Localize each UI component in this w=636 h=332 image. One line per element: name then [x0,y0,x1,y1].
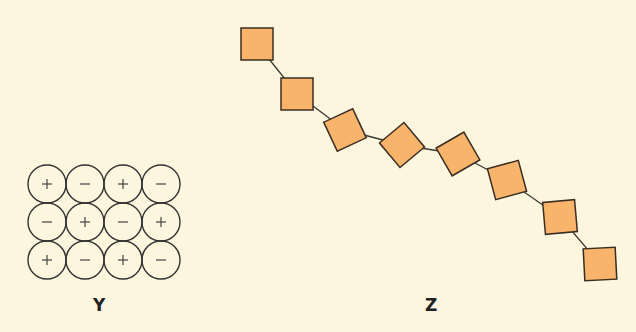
positive-ion [104,165,142,203]
diagram-canvas [0,0,636,332]
figure-z-label: Z [425,295,437,315]
chain-square [583,247,617,281]
positive-ion [66,203,104,241]
positive-ion [142,203,180,241]
chain-square [379,122,424,167]
positive-ion [28,165,66,203]
negative-ion [66,165,104,203]
ion-lattice [28,165,180,279]
negative-ion [28,203,66,241]
chain-square [281,78,313,110]
negative-ion [142,165,180,203]
chain-square [241,28,273,60]
negative-ion [66,241,104,279]
square-chain [241,28,617,281]
chain-square [487,160,526,199]
chain-square [324,109,367,152]
positive-ion [104,241,142,279]
chain-square [543,200,578,235]
chain-square [436,132,480,176]
negative-ion [142,241,180,279]
negative-ion [104,203,142,241]
positive-ion [28,241,66,279]
figure-y-label: Y [93,295,105,315]
